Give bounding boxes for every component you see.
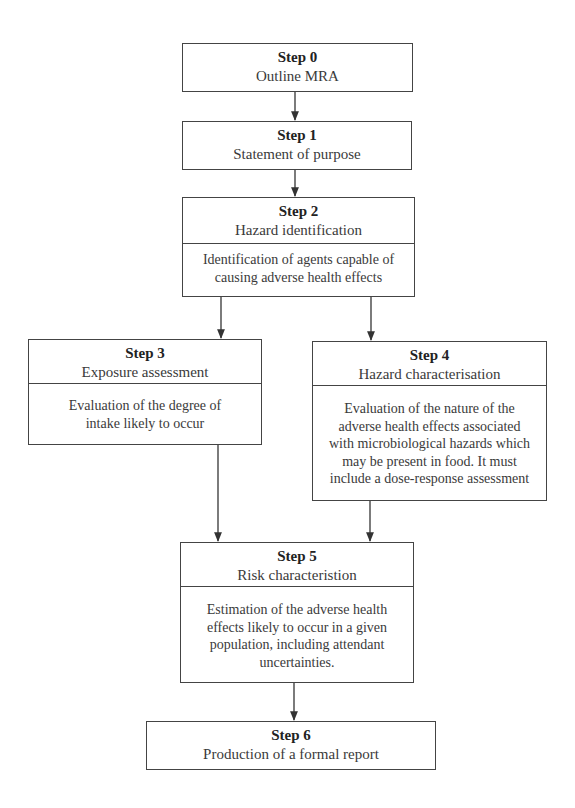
step5-title: Risk characteristion [181,566,413,585]
step5-desc-line: Estimation of the adverse health [187,601,407,619]
step0-title: Outline MRA [183,67,412,86]
step3-desc-line: Evaluation of the degree of [35,397,255,415]
step2-description: Identification of agents capable of caus… [183,244,414,286]
step3-desc-line: intake likely to occur [35,415,255,433]
step1-label: Step 1 [183,126,411,145]
step5-description: Estimation of the adverse health effects… [181,587,413,671]
step4-desc-line: adverse health effects associated [319,418,540,436]
step2-desc-line: causing adverse health effects [189,269,408,287]
step2-box: Step 2 Hazard identification Identificat… [182,197,415,297]
step2-title: Hazard identification [183,221,414,240]
step4-box: Step 4 Hazard characterisation Evaluatio… [312,341,547,501]
step5-label: Step 5 [181,547,413,566]
step3-box: Step 3 Exposure assessment Evaluation of… [28,339,262,445]
step2-label: Step 2 [183,202,414,221]
step3-label: Step 3 [29,344,261,363]
step0-box: Step 0 Outline MRA [182,43,413,92]
step6-title: Production of a formal report [147,745,435,764]
step0-label: Step 0 [183,48,412,67]
step3-description: Evaluation of the degree of intake likel… [29,384,261,432]
step6-label: Step 6 [147,726,435,745]
step5-desc-line: effects likely to occur in a given [187,619,407,637]
step4-desc-line: include a dose-response assessment [319,470,540,488]
step4-label: Step 4 [313,346,546,365]
step1-title: Statement of purpose [183,145,411,164]
step1-box: Step 1 Statement of purpose [182,121,412,170]
step4-desc-line: Evaluation of the nature of the [319,400,540,418]
step4-description: Evaluation of the nature of the adverse … [313,386,546,488]
step5-desc-line: population, including attendant [187,636,407,654]
step5-box: Step 5 Risk characteristion Estimation o… [180,542,414,683]
step6-box: Step 6 Production of a formal report [146,721,436,770]
step2-desc-line: Identification of agents capable of [189,251,408,269]
step4-desc-line: with microbiological hazards which [319,435,540,453]
step3-title: Exposure assessment [29,363,261,382]
step4-title: Hazard characterisation [313,365,546,384]
step4-desc-line: may be present in food. It must [319,453,540,471]
step5-desc-line: uncertainties. [187,654,407,672]
